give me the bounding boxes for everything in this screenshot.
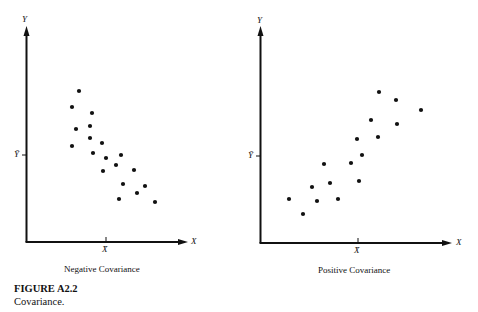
data-point [135, 191, 139, 195]
data-point [101, 169, 105, 173]
data-point [301, 212, 305, 216]
data-point [357, 179, 361, 183]
data-point [328, 181, 332, 185]
right-chart-title: Positive Covariance [318, 265, 390, 275]
data-point [114, 163, 118, 167]
data-point [70, 144, 74, 148]
left-x-axis-label: X [191, 236, 197, 246]
data-point [336, 197, 340, 201]
left-chart-title: Negative Covariance [64, 264, 140, 274]
data-point [349, 161, 353, 165]
left-xbar-label: X̄ [102, 244, 108, 254]
data-point [143, 184, 147, 188]
left-scatter-points [70, 89, 157, 204]
right-ybar-label: Ȳ [248, 150, 253, 160]
data-point [104, 156, 108, 160]
data-point [287, 197, 291, 201]
data-point [121, 182, 125, 186]
data-point [419, 108, 423, 112]
data-point [117, 197, 121, 201]
left-ybar-label: Ȳ [14, 149, 19, 159]
data-point [377, 90, 381, 94]
data-point [394, 98, 398, 102]
data-point [132, 168, 136, 172]
left-y-axis-label: Y [22, 14, 27, 24]
right-axes [256, 26, 452, 246]
data-point [395, 122, 399, 126]
data-point [88, 124, 92, 128]
data-point [90, 111, 94, 115]
figure-title: FIGURE A2.2 [14, 283, 78, 294]
data-point [355, 137, 359, 141]
right-scatter-points [287, 90, 423, 216]
data-point [360, 153, 364, 157]
data-point [100, 141, 104, 145]
data-point [119, 153, 123, 157]
data-point [70, 105, 74, 109]
right-x-axis-label: X [456, 237, 462, 247]
data-point [74, 127, 78, 131]
data-point [322, 162, 326, 166]
data-point [315, 199, 319, 203]
data-point [376, 135, 380, 139]
data-point [369, 118, 373, 122]
figure-caption: Covariance. [14, 296, 64, 307]
data-point [91, 151, 95, 155]
data-point [88, 136, 92, 140]
left-axes [22, 26, 188, 245]
data-point [153, 200, 157, 204]
right-y-axis-label: Y [257, 15, 262, 25]
data-point [310, 185, 314, 189]
data-point [77, 89, 81, 93]
right-xbar-label: X̄ [354, 245, 360, 255]
